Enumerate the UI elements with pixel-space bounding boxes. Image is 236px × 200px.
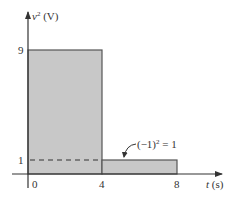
x-axis-label: t (s) (206, 178, 224, 191)
x-tick-8: 8 (174, 178, 180, 190)
y-tick-9: 9 (18, 44, 24, 56)
annotation-arrow (124, 144, 136, 157)
y-axis-label: v2 (V) (32, 10, 59, 23)
bar-segment-0-4 (28, 50, 102, 174)
bar-segment-4-8 (102, 160, 177, 174)
annotation-text: (−1)2 = 1 (137, 138, 177, 151)
x-tick-0: 0 (32, 178, 38, 190)
y-tick-1: 1 (18, 154, 24, 166)
x-tick-4: 4 (99, 178, 105, 190)
chart-canvas: v2 (V) 9 1 0 4 8 t (s) (−1)2 = 1 (0, 0, 236, 200)
